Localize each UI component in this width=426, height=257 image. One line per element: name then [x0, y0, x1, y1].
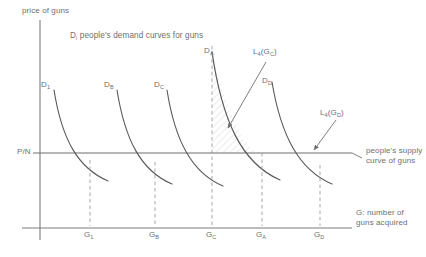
demand-label-b-sub: B [110, 84, 114, 90]
loss-label-gd-sub: 4 [325, 112, 328, 118]
loss-label-gc-argsub: C [270, 51, 274, 57]
demand-label-1: D1 [41, 80, 50, 90]
chart-title-rest: people's demand curves for guns [77, 31, 203, 40]
economics-diagram: price of guns Di people's demand curves … [0, 0, 426, 257]
loss-label-gc: L4(GC) [253, 47, 277, 57]
x-tick-gd: GD [314, 230, 324, 240]
demand-label-a-text: D [204, 46, 210, 55]
loss-label-gc-sub: 4 [258, 51, 261, 57]
x-axis-title: G: number of guns acquired [356, 208, 408, 228]
x-tick-ga-sub: A [262, 234, 266, 240]
x-tick-g1-sub: 1 [90, 234, 93, 240]
chart-title: Di people's demand curves for guns [70, 31, 203, 41]
supply-curve-label: people's supply curve of guns [366, 146, 422, 166]
demand-curve-1 [54, 90, 108, 181]
arrow-to-hatched-region [228, 62, 266, 128]
x-tick-g1: G1 [84, 230, 94, 240]
loss-label-gc-arg: (G [261, 47, 270, 56]
loss-label-gd-arg: (G [328, 108, 337, 117]
x-tick-gd-sub: D [320, 234, 324, 240]
y-axis-title: price of guns [22, 6, 69, 16]
demand-label-d: DD [262, 76, 272, 86]
arrow-to-gd-intersection [314, 120, 336, 150]
loss-label-gd-close: ) [341, 108, 344, 117]
demand-label-a-sub: A [210, 50, 214, 56]
loss-label-gd-l: L [320, 108, 325, 117]
demand-label-c: DC [154, 80, 164, 90]
supply-label-leader [352, 153, 362, 158]
loss-label-gc-l: L [253, 47, 258, 56]
y-tick-label-pn: P/N [17, 147, 31, 157]
loss-label-gd-argsub: D [337, 112, 341, 118]
x-tick-gb: GB [149, 230, 159, 240]
demand-curve-d [272, 82, 332, 184]
demand-label-c-sub: C [160, 84, 164, 90]
demand-label-d-sub: D [268, 80, 272, 86]
x-axis-title-line1: G: number of [356, 208, 408, 218]
demand-curve-b [117, 90, 172, 184]
demand-label-d-text: D [262, 76, 268, 85]
demand-label-1-text: D [41, 80, 47, 89]
demand-label-b-text: D [104, 80, 110, 89]
demand-label-1-sub: 1 [47, 84, 50, 90]
x-tick-gb-sub: B [155, 234, 159, 240]
x-tick-ga: GA [256, 230, 266, 240]
demand-label-c-text: D [154, 80, 160, 89]
x-axis-title-line2: guns acquired [356, 218, 408, 228]
supply-curve-label-line2: curve of guns [366, 156, 422, 166]
x-tick-gc-sub: C [212, 234, 216, 240]
supply-curve-label-line1: people's supply [366, 146, 422, 156]
loss-label-gd: L4(GD) [320, 108, 344, 118]
loss-label-gc-close: ) [274, 47, 277, 56]
demand-label-b: DB [104, 80, 114, 90]
x-tick-gc: GC [206, 230, 216, 240]
demand-label-a: DA [204, 46, 214, 56]
